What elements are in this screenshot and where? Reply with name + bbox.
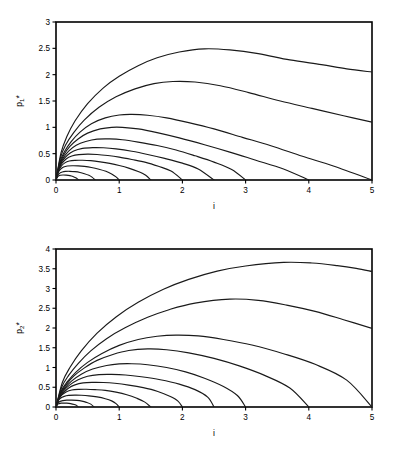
curve-group: [56, 49, 372, 180]
x-axis-title: i: [213, 201, 215, 211]
y-axis-tick-label: 3: [45, 18, 50, 27]
x-axis-tick-label: 3: [243, 186, 248, 195]
y-axis-tick-label: 0.5: [39, 383, 51, 392]
x-axis-tick-label: 3: [243, 413, 248, 422]
y-axis-tick-label: 3: [45, 285, 50, 294]
x-axis-tick-label: 2: [180, 186, 185, 195]
y-axis-tick-label: 0: [45, 403, 50, 412]
y-axis-tick-label: 4: [45, 245, 50, 254]
x-axis-tick-label: 4: [307, 413, 312, 422]
y-axis-tick-label: 1.5: [39, 97, 51, 106]
y-axis-tick-label: 2.5: [39, 304, 51, 313]
x-axis-tick-label: 4: [307, 186, 312, 195]
y-axis-tick-label: 2: [45, 324, 50, 333]
y-axis-tick-label: 0.5: [39, 150, 51, 159]
chart-svg-top: 00.511.522.53012345ip1*: [0, 0, 395, 228]
chart-panel-top: 00.511.522.53012345ip1*: [0, 0, 395, 228]
curve-group: [56, 262, 372, 407]
y-axis-tick-label: 1.5: [39, 344, 51, 353]
chart-curve: [56, 148, 214, 180]
chart-curve: [56, 127, 309, 180]
y-axis-tick-label: 0: [45, 176, 50, 185]
y-axis-tick-label: 1: [45, 364, 50, 373]
x-axis-tick-label: 1: [117, 186, 122, 195]
chart-curve: [56, 374, 214, 407]
chart-curve: [56, 262, 372, 407]
x-axis-tick-label: 5: [370, 186, 375, 195]
chart-curve: [56, 171, 95, 180]
chart-svg-bottom: 00.511.522.533.54012345ip2*: [0, 227, 395, 455]
x-axis-tick-label: 0: [54, 186, 59, 195]
chart-curve: [56, 166, 119, 180]
x-axis-title: i: [213, 428, 215, 438]
y-axis-title: p1*: [14, 95, 25, 107]
plot-frame: [56, 22, 372, 180]
two-panel-line-chart-figure: 00.511.522.53012345ip1* 00.511.522.533.5…: [0, 0, 395, 455]
y-axis-tick-label: 3.5: [39, 265, 51, 274]
x-axis-tick-label: 0: [54, 413, 59, 422]
chart-panel-bottom: 00.511.522.533.54012345ip2*: [0, 227, 395, 455]
y-axis-title: p2*: [14, 322, 25, 334]
y-axis-tick-label: 2.5: [39, 44, 51, 53]
chart-curve: [56, 81, 372, 180]
chart-curve: [56, 335, 372, 407]
x-axis-tick-label: 2: [180, 413, 185, 422]
chart-curve: [56, 49, 372, 180]
x-axis-tick-label: 1: [117, 413, 122, 422]
chart-curve: [56, 395, 119, 407]
y-axis-tick-label: 2: [45, 71, 50, 80]
chart-curve: [56, 364, 246, 407]
y-axis-tick-label: 1: [45, 123, 50, 132]
x-axis-tick-label: 5: [370, 413, 375, 422]
